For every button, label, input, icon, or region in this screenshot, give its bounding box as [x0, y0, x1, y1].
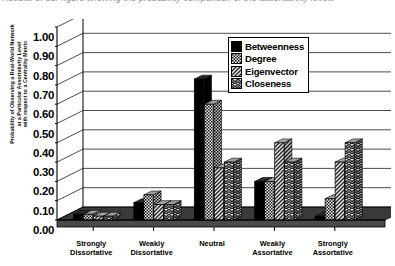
y-tick-label: 0.10 — [33, 205, 54, 217]
figure-caption-text: Results of our figure showing the probab… — [2, 0, 335, 3]
legend-item-closeness: Closeness — [231, 78, 304, 91]
x-category-label: StronglyAssortative — [295, 239, 371, 257]
x-axis-category-labels: StronglyDissortativeWeaklyDissortativeNe… — [55, 237, 391, 266]
legend-swatch-icon — [231, 66, 242, 77]
legend-swatch-icon — [231, 41, 242, 52]
y-axis-tick-labels: 1.000.900.800.700.600.500.400.300.200.10… — [12, 19, 54, 234]
legend-item-degree: Degree — [231, 53, 304, 66]
plot-area — [55, 19, 391, 234]
legend-label: Closeness — [245, 78, 291, 89]
legend-label: Betweenness — [245, 41, 304, 52]
legend-label: Eigenvector — [245, 66, 298, 77]
y-tick-label: 0.60 — [33, 108, 54, 120]
y-tick-label: 0.50 — [33, 128, 54, 140]
legend-swatch-icon — [231, 53, 242, 64]
bar-chart-figure: Probability of Observing a Real-World Ne… — [0, 9, 395, 266]
bar — [345, 139, 362, 220]
y-tick-label: 0.70 — [33, 89, 54, 101]
x-category-label-line: Dissortative — [114, 248, 190, 257]
y-tick-label: 1.00 — [33, 31, 54, 43]
y-tick-label: 0.30 — [33, 166, 54, 178]
y-tick-label: 0.00 — [33, 224, 54, 236]
figure-caption-strip: Results of our figure showing the probab… — [0, 0, 395, 9]
legend-swatch-icon — [231, 78, 242, 89]
bar-chart-svg — [55, 19, 391, 234]
chart-legend: BetweennessDegreeEigenvectorCloseness — [228, 37, 309, 93]
bar — [164, 201, 181, 220]
y-tick-label: 0.90 — [33, 50, 54, 62]
legend-label: Degree — [245, 53, 276, 64]
legend-item-betweenness: Betweenness — [231, 40, 304, 53]
bar — [224, 158, 241, 220]
x-category-label-line: Assortative — [295, 248, 371, 257]
y-tick-label: 0.40 — [33, 147, 54, 159]
bar-series-group — [74, 75, 363, 220]
y-tick-label: 0.20 — [33, 185, 54, 197]
y-tick-label: 0.80 — [33, 70, 54, 82]
bar — [285, 158, 302, 220]
legend-item-eigenvector: Eigenvector — [231, 65, 304, 78]
x-category-label-line: Strongly — [295, 239, 371, 248]
